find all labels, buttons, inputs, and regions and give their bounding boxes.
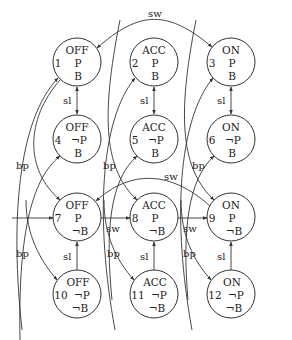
svg-text:B: B — [74, 70, 82, 82]
svg-text:ON: ON — [222, 44, 240, 56]
svg-text:10: 10 — [54, 289, 67, 301]
svg-text:5: 5 — [132, 134, 139, 146]
svg-text:P: P — [151, 57, 158, 69]
state-node-1: OFF 1 P B — [53, 38, 101, 86]
svg-text:3: 3 — [209, 57, 216, 69]
state-node-2: ACC 2 P B — [130, 38, 178, 86]
edge-label-sl-3-6: sl — [217, 95, 225, 106]
edge-bp-6-12 — [181, 200, 211, 280]
state-node-9: ON 9 P ¬B — [207, 193, 255, 241]
svg-text:¬P: ¬P — [151, 289, 167, 301]
state-node-11: ACC 11 ¬P ¬B — [130, 270, 178, 318]
svg-text:B: B — [74, 147, 82, 159]
svg-text:OFF: OFF — [65, 121, 88, 133]
svg-text:9: 9 — [209, 212, 216, 224]
svg-text:B: B — [228, 70, 236, 82]
svg-text:ACC: ACC — [141, 121, 166, 133]
svg-text:¬B: ¬B — [226, 225, 243, 237]
svg-text:ON: ON — [222, 199, 240, 211]
edge-label-sl-2-5: sl — [140, 95, 148, 106]
svg-text:P: P — [151, 212, 158, 224]
svg-text:12: 12 — [208, 289, 221, 301]
svg-text:¬B: ¬B — [226, 302, 243, 314]
edge-label-sl-12-9: sl — [217, 251, 225, 262]
edge-bp-2-8 — [108, 20, 137, 200]
svg-text:¬B: ¬B — [149, 225, 166, 237]
svg-text:8: 8 — [132, 212, 139, 224]
svg-text:P: P — [74, 212, 81, 224]
svg-text:¬B: ¬B — [72, 225, 89, 237]
svg-text:OFF: OFF — [66, 276, 89, 288]
svg-text:4: 4 — [55, 134, 62, 146]
svg-text:¬P: ¬P — [71, 134, 87, 146]
svg-text:ON: ON — [222, 121, 240, 133]
svg-text:ACC: ACC — [141, 44, 166, 56]
state-node-8: ACC 8 P ¬B — [130, 193, 178, 241]
edge-bp-4-10 — [26, 200, 57, 280]
svg-text:ACC: ACC — [142, 276, 167, 288]
edge-bp-7-1 — [17, 78, 58, 330]
svg-text:P: P — [228, 57, 235, 69]
nodes: OFF 1 P B ACC 2 P B ON 3 P B OFF 4 ¬P B — [53, 38, 255, 318]
svg-text:¬P: ¬P — [148, 134, 164, 146]
svg-text:6: 6 — [209, 134, 216, 146]
edge-label-bp-mid-lower: bp — [107, 248, 120, 259]
edge-label-bp-right-lower: bp — [183, 248, 196, 259]
edge-label-bp-left-lower: bp — [16, 248, 29, 259]
svg-text:ACC: ACC — [141, 199, 166, 211]
edge-label-sl-10-7: sl — [63, 251, 71, 262]
svg-text:7: 7 — [55, 212, 62, 224]
state-node-12: ON 12 ¬P ¬B — [207, 270, 255, 318]
svg-text:¬B: ¬B — [149, 302, 166, 314]
svg-text:OFF: OFF — [65, 199, 88, 211]
svg-text:P: P — [228, 212, 235, 224]
state-diagram: sw sl sl sl sl sl sl sw sw sw bp bp — [0, 0, 292, 340]
svg-text:1: 1 — [55, 57, 62, 69]
svg-text:¬B: ¬B — [72, 302, 89, 314]
edges: sw sl sl sl sl sl sl sw sw sw bp bp — [12, 8, 231, 340]
edge-label-sw-top: sw — [148, 8, 162, 19]
edge-bp-3-9 — [184, 20, 214, 200]
state-node-4: OFF 4 ¬P B — [53, 115, 101, 163]
state-node-7: OFF 7 P ¬B — [53, 193, 101, 241]
svg-text:¬P: ¬P — [228, 289, 244, 301]
edge-label-bp-left-upper: bp — [16, 160, 29, 171]
svg-text:2: 2 — [132, 57, 139, 69]
edge-label-sl-1-4: sl — [63, 95, 71, 106]
svg-text:¬P: ¬P — [225, 134, 241, 146]
svg-text:11: 11 — [131, 289, 144, 301]
edge-label-sw-mid: sw — [164, 171, 178, 182]
edge-label-sl-11-8: sl — [140, 251, 148, 262]
state-node-6: ON 6 ¬P B — [207, 115, 255, 163]
svg-text:ON: ON — [223, 276, 241, 288]
state-node-10: OFF 10 ¬P ¬B — [53, 270, 101, 318]
svg-text:OFF: OFF — [65, 44, 88, 56]
svg-text:B: B — [151, 147, 159, 159]
edge-label-bp-right-upper: bp — [192, 160, 205, 171]
svg-text:P: P — [74, 57, 81, 69]
edge-label-bp-mid-upper: bp — [103, 160, 116, 171]
svg-text:B: B — [228, 147, 236, 159]
edge-bp-5-11 — [104, 200, 134, 280]
state-node-3: ON 3 P B — [207, 38, 255, 86]
svg-text:B: B — [151, 70, 159, 82]
state-node-5: ACC 5 ¬P B — [130, 115, 178, 163]
svg-text:¬P: ¬P — [74, 289, 90, 301]
